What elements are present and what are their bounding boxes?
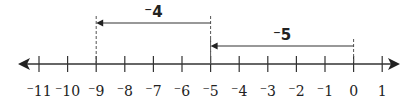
tick-label: ⁻1 [317, 83, 333, 99]
tick-label: ⁻4 [231, 83, 247, 99]
tick-label: ⁻9 [88, 83, 104, 99]
tick-label: 1 [378, 83, 387, 99]
tick-label: ⁻3 [260, 83, 276, 99]
jump-label: ⁻4 [144, 3, 162, 21]
jump-arrowhead-icon [96, 20, 103, 27]
tick-label: ⁻5 [202, 83, 218, 99]
tick-label: ⁻10 [55, 83, 80, 99]
jump-arrows-group: ⁻5⁻4 [96, 3, 353, 64]
tick-label: ⁻2 [288, 83, 304, 99]
number-line-diagram: ⁻11⁻10⁻9⁻8⁻7⁻6⁻5⁻4⁻3⁻2⁻101 ⁻5⁻4 [0, 0, 415, 105]
tick-label: ⁻6 [174, 83, 190, 99]
jump-label: ⁻5 [273, 26, 291, 44]
number-line-svg: ⁻11⁻10⁻9⁻8⁻7⁻6⁻5⁻4⁻3⁻2⁻101 ⁻5⁻4 [0, 0, 415, 105]
tick-label: ⁻8 [117, 83, 133, 99]
tick-label: ⁻7 [145, 83, 161, 99]
tick-label: ⁻11 [26, 83, 51, 99]
tick-group: ⁻11⁻10⁻9⁻8⁻7⁻6⁻5⁻4⁻3⁻2⁻101 [26, 56, 386, 99]
tick-label: 0 [349, 83, 358, 99]
jump-arrowhead-icon [211, 43, 218, 50]
